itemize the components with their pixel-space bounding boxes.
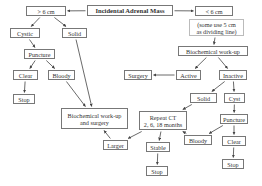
node-label-line: Cyst xyxy=(229,95,240,102)
node-biochemical-work-up: Biochemical work-up xyxy=(178,46,248,56)
node-label-line: Stop xyxy=(18,96,29,103)
node-label-line: < 6 cm xyxy=(205,8,222,15)
node-solid-left: Solid xyxy=(62,28,87,38)
node-repeat-ct: Repeat CT2, 6, 18 months xyxy=(139,111,187,130)
node-label-line: as dividing line) xyxy=(196,28,236,35)
edge-bloody_left-to-biochem_surgery xyxy=(66,82,85,107)
node-less-than-6cm: < 6 cm xyxy=(195,6,233,16)
node-label-line: Bloody xyxy=(52,72,70,79)
node-stable: Stable xyxy=(146,142,170,152)
edge-inactive-to-solid_right xyxy=(212,82,225,92)
node-label-line: and surgery xyxy=(80,119,109,126)
edge-clear_left-to-stop_left xyxy=(24,82,25,93)
edge-larger-to-biochem_surgery xyxy=(104,131,110,139)
edge-solid_left-to-biochem_surgery xyxy=(76,40,92,107)
node-label-line: Solid xyxy=(68,30,81,37)
node-inactive: Inactive xyxy=(219,70,247,80)
edge-puncture_right-to-bloody_right xyxy=(209,126,223,134)
node-label-line: Cystic xyxy=(17,30,33,37)
edge-repeat_ct-to-larger xyxy=(128,132,142,139)
edge-gt6-to-cystic xyxy=(31,18,40,27)
node-label-line: Biochemical work-up xyxy=(186,48,240,55)
node-label-line: Incidental Adrenal Mass xyxy=(95,7,164,14)
node-clear-left: Clear xyxy=(13,70,38,80)
node-label-line: Solid xyxy=(197,95,210,102)
node-label-line: Stop xyxy=(227,161,238,168)
edge-biochem-to-active xyxy=(195,58,206,69)
edge-puncture_left-to-bloody_left xyxy=(46,61,54,69)
node-label-line: Bloody xyxy=(189,137,207,144)
node-label-line: (some use 5 cm xyxy=(197,21,236,28)
node-puncture-left: Puncture xyxy=(24,49,55,59)
edge-solid_right-to-repeat_ct xyxy=(183,105,192,110)
node-label-line: Inactive xyxy=(223,72,243,79)
node-label-line: Biochemical work-up xyxy=(68,112,122,119)
node-solid-right: Solid xyxy=(190,93,217,103)
flowchart: Incidental Adrenal Mass > 6 cm < 6 cm (s… xyxy=(0,0,262,186)
node-larger: Larger xyxy=(103,140,128,150)
node-puncture-right: Puncture xyxy=(220,114,248,124)
node-cyst: Cyst xyxy=(224,93,245,103)
edge-inactive-to-cyst xyxy=(233,82,234,92)
node-stop-right: Stop xyxy=(222,159,244,169)
node-stop-left: Stop xyxy=(13,94,35,104)
edge-puncture_left-to-clear_left xyxy=(30,61,35,69)
node-label-line: Clear xyxy=(19,72,32,79)
node-active: Active xyxy=(176,70,201,80)
edge-bloody_right-to-repeat_ct xyxy=(183,132,187,134)
node-stop-middle: Stop xyxy=(146,166,168,176)
node-label-line: Repeat CT xyxy=(150,114,177,121)
node-label-line: Active xyxy=(180,72,197,79)
node-label-line: Stable xyxy=(150,144,165,151)
node-label-line: Stop xyxy=(151,168,162,175)
node-label-line: Puncture xyxy=(29,51,51,58)
edge-biochem-to-inactive xyxy=(218,58,227,69)
edge-cystic-to-puncture_left xyxy=(29,40,35,48)
node-bloody-left: Bloody xyxy=(48,70,75,80)
node-label-line: 2, 6, 18 months xyxy=(144,121,182,128)
node-label-line: > 6 cm xyxy=(37,8,54,15)
node-surgery: Surgery xyxy=(124,70,152,80)
node-bloody-right: Bloody xyxy=(184,135,212,145)
edge-repeat_ct-to-stable xyxy=(159,132,161,141)
edge-gt6-to-solid_left xyxy=(54,18,66,27)
node-label-line: Puncture xyxy=(223,116,245,123)
node-clear-right: Clear xyxy=(222,136,246,146)
node-cystic: Cystic xyxy=(10,28,40,38)
node-label-line: Larger xyxy=(107,142,123,149)
node-greater-than-6cm: > 6 cm xyxy=(26,6,66,16)
node-biochemical-work-up-and-surgery: Biochemical work-upand surgery xyxy=(61,108,128,129)
node-label-line: Clear xyxy=(227,138,240,145)
node-dividing-line-note: (some use 5 cmas dividing line) xyxy=(189,19,244,36)
node-incidental-adrenal-mass: Incidental Adrenal Mass xyxy=(87,5,173,16)
node-label-line: Surgery xyxy=(128,72,147,79)
edge-lt6_note-to-biochem xyxy=(214,38,215,45)
